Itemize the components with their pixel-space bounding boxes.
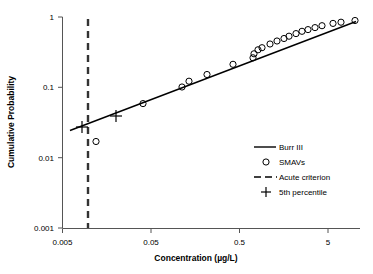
legend-label-burr-iii: Burr III [279,143,303,152]
data-point [251,51,257,57]
data-point [293,30,299,36]
data-point [286,33,292,39]
data-point [338,19,344,25]
data-point [319,23,325,29]
chart-figure: 1 0.1 0.01 0.001 0.005 0.05 0.5 5 Concen… [0,0,373,274]
data-point [352,17,358,23]
y-tick-label-0.01: 0.01 [38,154,54,163]
y-axis-ticks [58,17,63,228]
x-axis-ticks [63,229,329,234]
x-tick-label-0.005: 0.005 [52,238,73,247]
y-tick-label-0.001: 0.001 [34,224,55,233]
legend-label-acute-criterion: Acute criterion [279,173,330,182]
y-axis-title: Cumulative Probability [6,76,16,168]
data-point [299,28,305,34]
x-tick-label-0.05: 0.05 [143,238,159,247]
x-axis-title: Concentration (µg/L) [154,253,237,263]
data-point [312,25,318,31]
legend-label-fifth-percentile: 5th percentile [279,188,328,197]
data-point [330,20,336,26]
data-point [305,27,311,33]
data-point [186,78,192,84]
legend-marker-circle-open [263,159,269,165]
burr-iii-fit-line [70,22,356,131]
data-point [230,61,236,67]
legend-label-smavs: SMAVs [279,158,305,167]
x-tick-label-5: 5 [326,238,331,247]
x-tick-label-0.5: 0.5 [234,238,246,247]
y-tick-label-0.1: 0.1 [43,83,55,92]
chart-plot-area: 1 0.1 0.01 0.001 0.005 0.05 0.5 5 Concen… [0,0,373,274]
data-point [204,71,210,77]
data-point [93,138,99,144]
data-point [250,55,256,61]
data-point [274,38,280,44]
y-tick-label-1: 1 [50,13,55,22]
data-point [267,41,273,47]
chart-legend: Burr III SMAVs Acute criterion 5th perce… [254,143,330,197]
